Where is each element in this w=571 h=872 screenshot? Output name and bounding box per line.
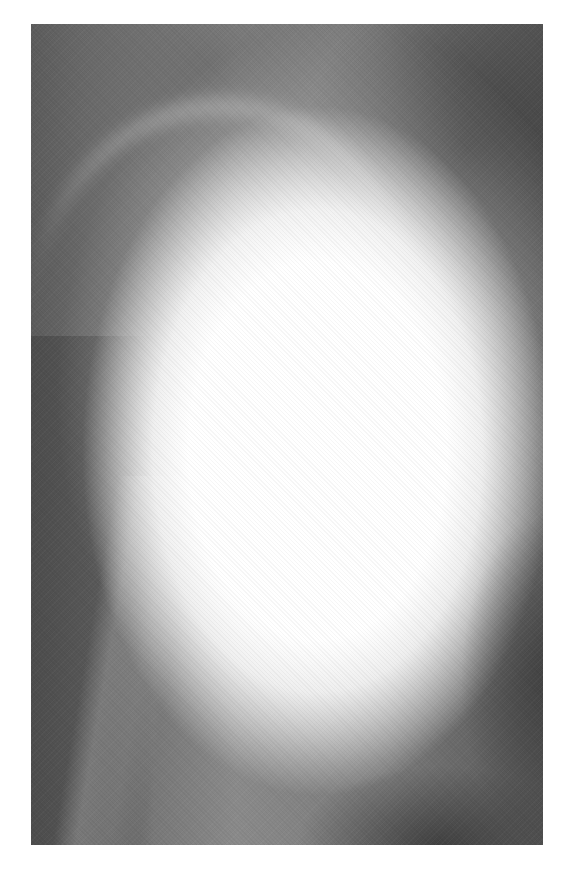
radiograph-image — [31, 24, 543, 845]
film-grain — [31, 24, 543, 845]
